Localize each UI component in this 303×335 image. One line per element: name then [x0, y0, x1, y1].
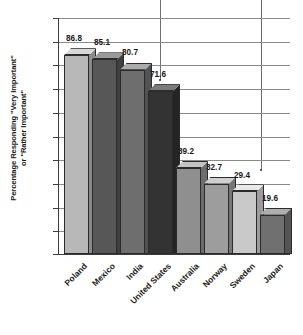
bar-india[interactable] [120, 63, 145, 254]
bar-australia-face [176, 168, 201, 254]
data-label-australia: 39.2 [178, 147, 194, 156]
tickmark-30 [53, 184, 58, 185]
gridline-100 [58, 18, 290, 19]
bar-japan[interactable] [260, 208, 285, 255]
tickmark-40 [53, 160, 58, 161]
data-label-india: 80.7 [122, 48, 138, 57]
chart-container: Percentage Responding "Very Important" o… [0, 0, 303, 335]
bar-poland-face [64, 55, 89, 254]
bar-sweden-face [232, 191, 257, 254]
bar-united-states[interactable] [148, 84, 173, 254]
bar-norway-face [204, 184, 229, 255]
bar-norway[interactable] [204, 177, 229, 255]
bar-japan-face [260, 215, 285, 255]
bar-japan-side [285, 208, 292, 255]
tickmark-90 [53, 42, 58, 43]
data-label-united-states: 71.6 [150, 70, 166, 79]
data-label-poland: 86.8 [66, 34, 82, 43]
bar-united-states-face [148, 91, 173, 254]
bar-india-face [120, 70, 145, 254]
y-axis-title: Percentage Responding "Very Important" o… [9, 33, 29, 223]
bar-sweden[interactable] [232, 184, 257, 254]
bar-poland[interactable] [64, 48, 89, 254]
tickmark-70 [53, 89, 58, 90]
plot-area: 86.8 85.1 80.7 71.6 39.2 [58, 18, 290, 255]
tickmark-80 [53, 65, 58, 66]
bar-mexico[interactable] [92, 52, 117, 254]
tickmark-100 [53, 18, 58, 19]
y-axis-line [58, 18, 59, 255]
tickmark-10 [53, 231, 58, 232]
tickmark-60 [53, 113, 58, 114]
tickmark-50 [53, 137, 58, 138]
data-label-japan: 19.6 [262, 194, 278, 203]
tickmark-20 [53, 208, 58, 209]
x-axis-line [58, 254, 290, 255]
data-label-mexico: 85.1 [94, 38, 110, 47]
data-label-norway: 32.7 [206, 163, 222, 172]
bar-mexico-face [92, 59, 117, 254]
data-label-sweden: 29.4 [234, 171, 250, 180]
tickmark-0 [53, 254, 58, 255]
bar-australia[interactable] [176, 161, 201, 254]
gridline-90 [58, 42, 290, 43]
